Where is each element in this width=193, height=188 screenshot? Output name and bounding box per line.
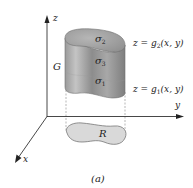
sigma-2-symbol: σ <box>95 33 102 44</box>
lower-eq-prefix: z = g <box>133 84 157 94</box>
upper-eq-prefix: z = g <box>133 38 157 48</box>
y-axis <box>47 114 184 119</box>
sigma-3-subscript: 3 <box>102 60 106 67</box>
surface-sigma-3: σ3 <box>95 56 106 67</box>
surface-sigma-2: σ2 <box>95 34 106 45</box>
region-r-label: R <box>99 129 107 139</box>
surface-sigma-1: σ1 <box>95 76 106 87</box>
z-axis-label: z <box>53 14 58 23</box>
sigma-1-subscript: 1 <box>102 80 106 87</box>
y-axis-label: y <box>175 101 180 110</box>
lower-surface-equation: z = g1(x, y) <box>133 85 184 95</box>
sigma-2-subscript: 2 <box>102 38 106 45</box>
z-axis <box>45 15 50 117</box>
upper-surface-equation: z = g2(x, y) <box>133 39 184 49</box>
x-axis <box>15 117 47 164</box>
x-axis-label: x <box>23 155 28 164</box>
sigma-3-symbol: σ <box>95 55 102 66</box>
figure-caption: (a) <box>91 174 105 184</box>
sigma-1-symbol: σ <box>95 75 102 86</box>
solid-label-g: G <box>53 62 61 72</box>
upper-eq-suffix: (x, y) <box>161 38 184 48</box>
region-r <box>66 123 126 144</box>
lower-eq-suffix: (x, y) <box>161 84 184 94</box>
